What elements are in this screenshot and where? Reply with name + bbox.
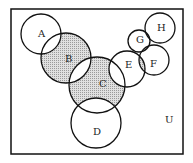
label-universe: U bbox=[165, 114, 173, 125]
venn-diagram: A B C D E F G H U bbox=[0, 0, 193, 163]
label-a: A bbox=[37, 28, 46, 39]
label-e: E bbox=[125, 59, 132, 70]
label-h: H bbox=[157, 22, 166, 33]
label-c: C bbox=[99, 78, 107, 89]
label-f: F bbox=[150, 58, 157, 69]
label-d: D bbox=[93, 126, 101, 137]
label-g: G bbox=[136, 34, 144, 45]
label-b: B bbox=[65, 53, 72, 64]
